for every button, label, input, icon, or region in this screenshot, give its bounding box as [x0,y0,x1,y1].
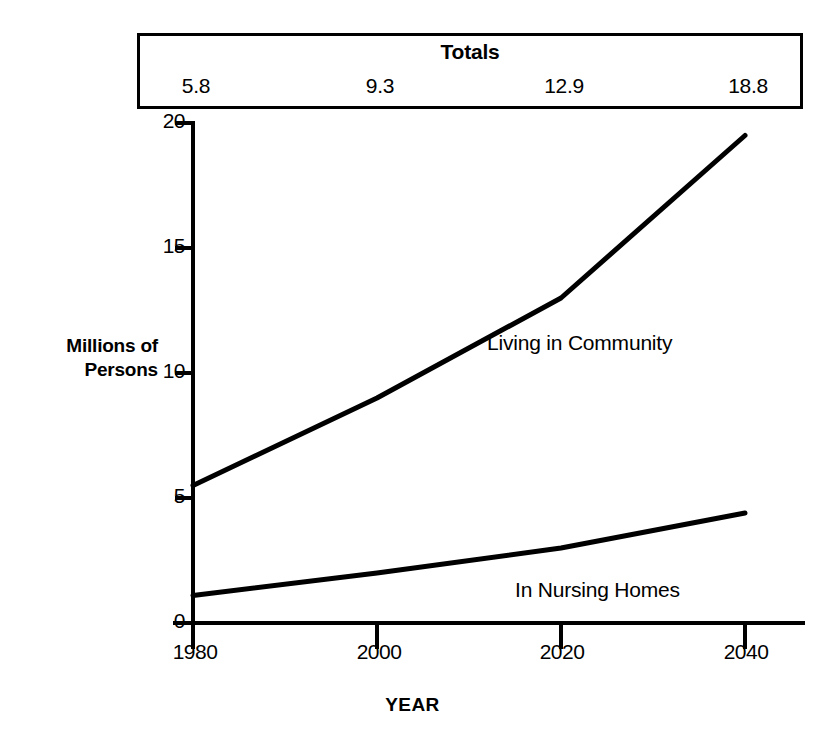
y-tick-marks [175,123,193,623]
chart-figure: Totals 5.8 9.3 12.9 18.8 Millions of Per… [0,0,825,743]
x-tick-marks [193,623,745,649]
series-line-in-nursing-homes [193,513,745,596]
series-line-living-in-community [193,136,745,486]
plot-area [0,0,825,743]
